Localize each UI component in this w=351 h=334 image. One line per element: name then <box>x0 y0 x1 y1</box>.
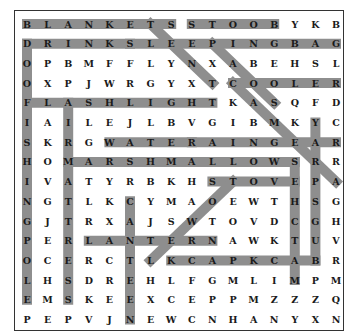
grid-cell[interactable]: N <box>17 192 37 211</box>
grid-cell[interactable]: R <box>99 271 119 290</box>
grid-cell[interactable]: Q <box>285 93 305 112</box>
grid-cell[interactable]: A <box>99 231 119 250</box>
grid-cell[interactable]: N <box>79 34 99 53</box>
grid-cell[interactable]: E <box>58 251 78 270</box>
grid-cell[interactable]: A <box>223 54 243 73</box>
grid-cell[interactable]: R <box>79 251 99 270</box>
grid-cell[interactable]: J <box>120 113 140 132</box>
grid-cell[interactable]: O <box>223 15 243 34</box>
grid-cell[interactable]: Y <box>161 54 181 73</box>
grid-cell[interactable]: S <box>58 290 78 309</box>
grid-cell[interactable]: F <box>99 54 119 73</box>
grid-cell[interactable]: S <box>120 152 140 171</box>
grid-cell[interactable]: E <box>161 133 181 152</box>
grid-cell[interactable]: V <box>182 113 202 132</box>
grid-cell[interactable]: H <box>182 172 202 191</box>
grid-cell[interactable]: E <box>38 310 58 329</box>
grid-cell[interactable]: M <box>161 192 181 211</box>
grid-cell[interactable]: S <box>285 152 305 171</box>
grid-cell[interactable]: A <box>244 310 264 329</box>
grid-cell[interactable]: S <box>161 212 181 231</box>
grid-cell[interactable]: L <box>79 113 99 132</box>
grid-cell[interactable]: I <box>17 172 37 191</box>
grid-cell[interactable]: E <box>285 172 305 191</box>
grid-cell[interactable]: D <box>17 34 37 53</box>
grid-cell[interactable]: V <box>264 172 284 191</box>
grid-cell[interactable]: E <box>182 34 202 53</box>
grid-cell[interactable]: N <box>264 310 284 329</box>
grid-cell[interactable]: B <box>264 15 284 34</box>
grid-cell[interactable]: K <box>244 251 264 270</box>
grid-cell[interactable]: E <box>99 113 119 132</box>
grid-cell[interactable]: Y <box>161 74 181 93</box>
grid-cell[interactable]: E <box>38 231 58 250</box>
grid-cell[interactable]: E <box>264 54 284 73</box>
grid-cell[interactable]: I <box>223 34 243 53</box>
grid-cell[interactable]: F <box>17 93 37 112</box>
grid-cell[interactable]: A <box>285 251 305 270</box>
grid-cell[interactable]: K <box>305 15 325 34</box>
grid-cell[interactable]: A <box>79 152 99 171</box>
grid-cell[interactable]: K <box>161 172 181 191</box>
grid-cell[interactable]: R <box>326 133 346 152</box>
grid-cell[interactable]: C <box>182 251 202 270</box>
grid-cell[interactable]: A <box>58 93 78 112</box>
grid-cell[interactable]: N <box>244 133 264 152</box>
grid-cell[interactable]: G <box>326 34 346 53</box>
grid-cell[interactable]: Y <box>285 15 305 34</box>
grid-cell[interactable]: N <box>79 15 99 34</box>
grid-cell[interactable]: F <box>182 271 202 290</box>
grid-cell[interactable]: R <box>305 152 325 171</box>
grid-cell[interactable]: T <box>202 74 222 93</box>
grid-cell[interactable]: W <box>99 133 119 152</box>
grid-cell[interactable]: O <box>38 152 58 171</box>
grid-cell[interactable]: E <box>305 74 325 93</box>
grid-cell[interactable]: L <box>141 54 161 73</box>
grid-cell[interactable]: H <box>17 152 37 171</box>
grid-cell[interactable]: J <box>38 212 58 231</box>
grid-cell[interactable]: E <box>99 290 119 309</box>
grid-cell[interactable]: Z <box>285 290 305 309</box>
grid-cell[interactable]: L <box>285 74 305 93</box>
grid-cell[interactable]: B <box>244 54 264 73</box>
grid-cell[interactable]: I <box>223 133 243 152</box>
grid-cell[interactable]: X <box>38 74 58 93</box>
grid-cell[interactable]: J <box>79 74 99 93</box>
grid-cell[interactable]: G <box>38 192 58 211</box>
grid-cell[interactable]: K <box>223 93 243 112</box>
grid-cell[interactable]: O <box>223 212 243 231</box>
grid-cell[interactable]: T <box>285 231 305 250</box>
grid-cell[interactable]: W <box>99 74 119 93</box>
grid-cell[interactable]: A <box>305 34 325 53</box>
grid-cell[interactable]: U <box>305 231 325 250</box>
grid-cell[interactable]: T <box>202 15 222 34</box>
grid-cell[interactable]: G <box>264 133 284 152</box>
grid-cell[interactable]: H <box>141 271 161 290</box>
grid-cell[interactable]: P <box>38 54 58 73</box>
grid-cell[interactable]: R <box>58 231 78 250</box>
grid-cell[interactable]: S <box>17 133 37 152</box>
grid-cell[interactable]: V <box>244 212 264 231</box>
grid-cell[interactable]: H <box>182 93 202 112</box>
grid-cell[interactable]: M <box>326 271 346 290</box>
grid-cell[interactable]: R <box>79 212 99 231</box>
grid-cell[interactable]: T <box>79 172 99 191</box>
grid-cell[interactable]: R <box>326 74 346 93</box>
grid-cell[interactable]: L <box>244 271 264 290</box>
grid-cell[interactable]: S <box>305 192 325 211</box>
grid-cell[interactable]: M <box>264 113 284 132</box>
grid-cell[interactable]: N <box>244 34 264 53</box>
grid-cell[interactable]: C <box>120 192 140 211</box>
grid-cell[interactable]: D <box>79 271 99 290</box>
grid-cell[interactable]: P <box>17 231 37 250</box>
grid-cell[interactable]: I <box>58 34 78 53</box>
grid-cell[interactable]: I <box>17 113 37 132</box>
grid-cell[interactable]: A <box>202 133 222 152</box>
grid-cell[interactable]: S <box>305 54 325 73</box>
grid-cell[interactable]: H <box>285 54 305 73</box>
grid-cell[interactable]: T <box>223 172 243 191</box>
grid-cell[interactable]: R <box>326 251 346 270</box>
grid-cell[interactable]: O <box>17 251 37 270</box>
grid-cell[interactable]: M <box>79 54 99 73</box>
grid-cell[interactable]: T <box>141 15 161 34</box>
